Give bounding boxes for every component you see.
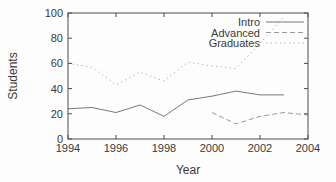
plot-border-rect xyxy=(68,13,308,139)
legend-label-graduates: Graduates xyxy=(209,37,261,49)
students-per-year-line-chart: 199419961998200020022004020406080100 Int… xyxy=(0,0,336,182)
y-tick-label: 100 xyxy=(45,7,63,19)
series-advanced-line xyxy=(212,113,308,124)
axis-ticks xyxy=(68,13,308,139)
legend: IntroAdvancedGraduates xyxy=(209,16,304,49)
y-tick-label: 40 xyxy=(51,83,63,95)
y-tick-label: 0 xyxy=(57,133,63,145)
series-group xyxy=(68,17,308,124)
y-tick-label: 60 xyxy=(51,57,63,69)
y-axis-title: Students xyxy=(6,52,20,99)
x-axis-title: Year xyxy=(176,163,200,177)
legend-entry-graduates: Graduates xyxy=(209,37,304,49)
chart-container: 199419961998200020022004020406080100 Int… xyxy=(0,0,336,182)
x-tick-label: 1998 xyxy=(152,142,176,154)
x-tick-label: 1996 xyxy=(104,142,128,154)
x-tick-label: 2000 xyxy=(200,142,224,154)
y-tick-label: 20 xyxy=(51,108,63,120)
axis-tick-labels: 199419961998200020022004020406080100 xyxy=(45,7,321,154)
series-intro-line xyxy=(68,91,284,116)
x-tick-label: 2002 xyxy=(248,142,272,154)
y-tick-label: 80 xyxy=(51,32,63,44)
x-tick-label: 2004 xyxy=(296,142,320,154)
plot-border xyxy=(68,13,308,139)
